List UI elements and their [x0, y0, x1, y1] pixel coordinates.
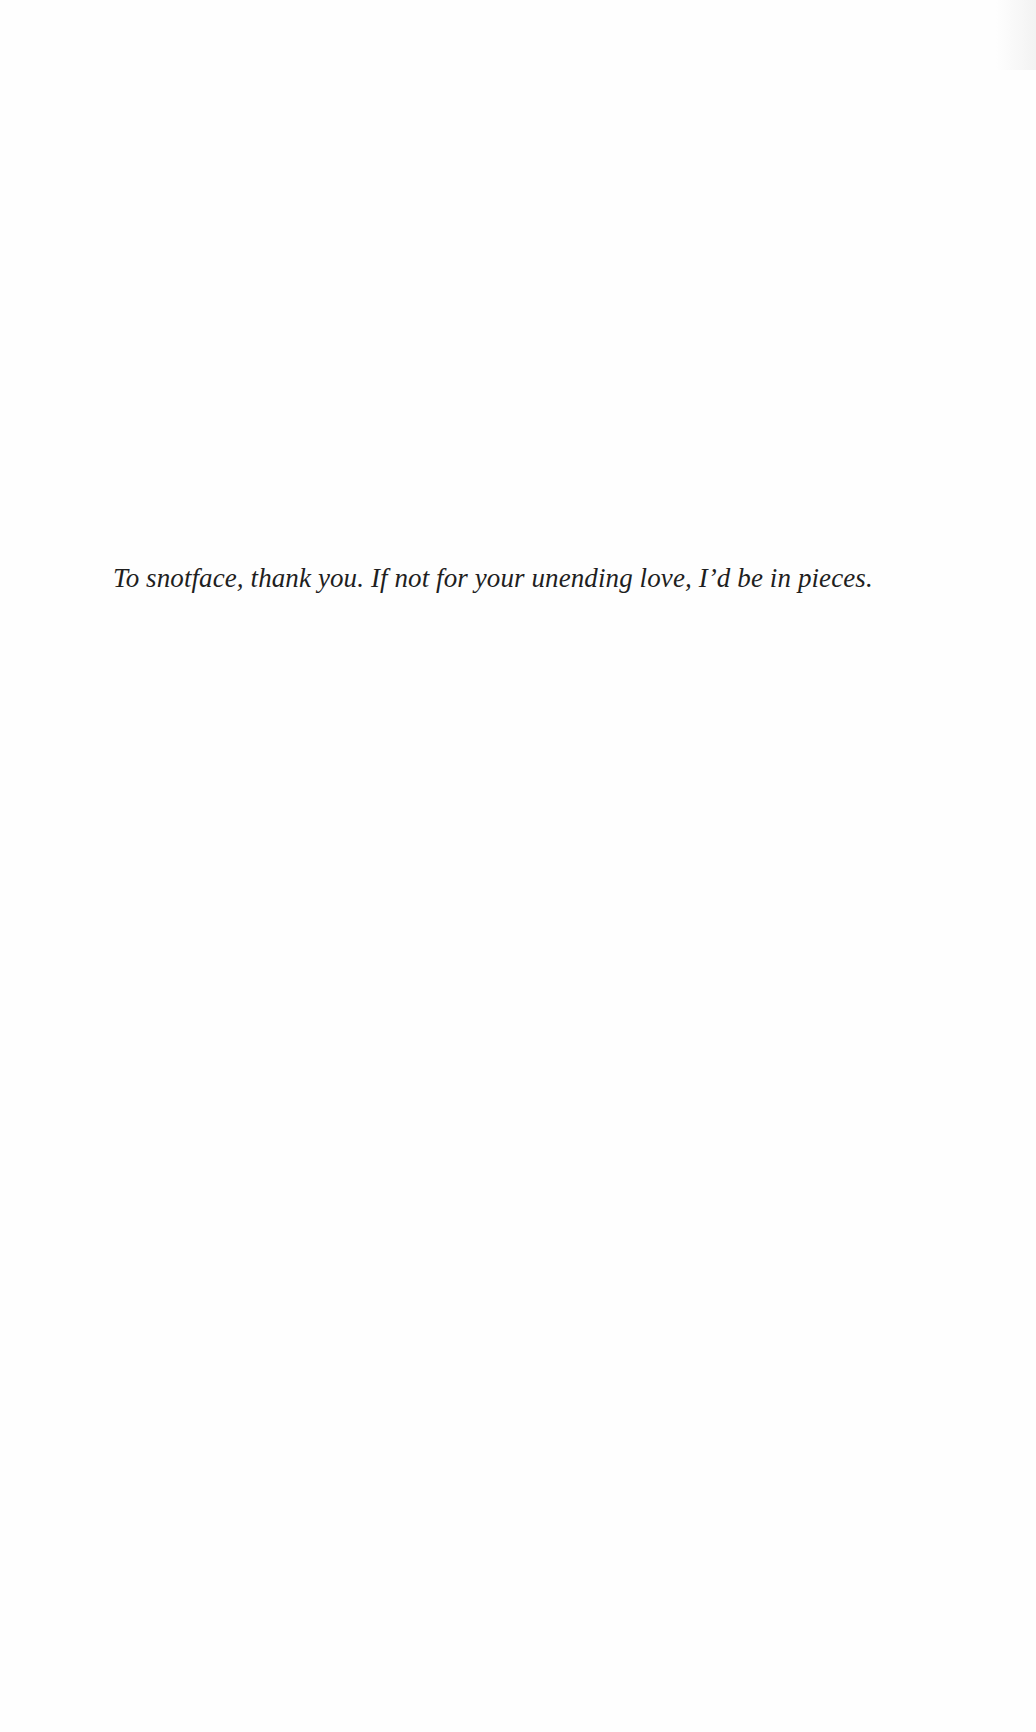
- book-page: To snotface, thank you. If not for your …: [0, 0, 1036, 1732]
- dedication-text: To snotface, thank you. If not for your …: [113, 558, 873, 598]
- page-edge-shadow: [996, 0, 1036, 70]
